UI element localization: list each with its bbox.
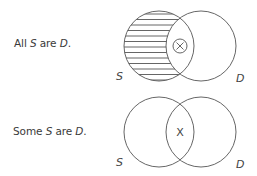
x-marker: X <box>176 126 184 139</box>
venn-diagrams: S D X S D <box>0 0 257 176</box>
venn-diagram-all: S D <box>116 11 244 85</box>
circle-s <box>124 11 194 81</box>
label-d: D <box>236 72 244 85</box>
circled-x-icon <box>177 43 184 50</box>
circle-d <box>166 11 236 81</box>
label-d: D <box>236 158 244 171</box>
label-s: S <box>116 70 123 83</box>
venn-diagram-some: X S D <box>116 97 244 171</box>
label-s: S <box>116 156 123 169</box>
